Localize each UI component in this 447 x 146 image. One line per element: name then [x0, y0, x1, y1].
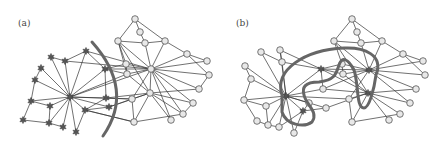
edge	[403, 54, 425, 75]
circle-node	[196, 86, 203, 93]
star-node	[32, 76, 38, 83]
circle-node	[168, 117, 175, 124]
edge	[105, 69, 106, 98]
edge	[41, 68, 70, 97]
circle-node	[190, 100, 197, 107]
edge	[85, 110, 134, 122]
edge	[382, 41, 403, 54]
edge	[23, 120, 49, 123]
circle-node	[148, 66, 155, 73]
circle-node	[346, 96, 353, 103]
circle-node	[413, 86, 420, 93]
circle-node	[137, 29, 144, 36]
circle-node	[349, 16, 356, 23]
network-diagram-b: (b)	[224, 0, 447, 146]
circle-node	[279, 59, 286, 66]
circle-node	[254, 118, 261, 125]
circle-node	[142, 40, 149, 47]
edge	[361, 43, 369, 70]
edge	[85, 107, 109, 110]
circle-node	[277, 47, 284, 54]
panel-label: (b)	[236, 18, 249, 28]
circle-node	[386, 117, 393, 124]
edge	[35, 80, 70, 97]
edge	[126, 64, 151, 69]
edge	[106, 98, 132, 99]
circle-node	[241, 97, 248, 104]
edge	[70, 97, 76, 132]
circle-node	[397, 111, 404, 118]
circle-node	[354, 29, 361, 36]
circle-node	[263, 103, 270, 110]
star-node	[47, 102, 53, 109]
edge	[368, 89, 416, 93]
edge	[31, 80, 35, 101]
panel-b: (b)	[224, 0, 447, 146]
edge	[70, 69, 105, 97]
edge	[31, 97, 70, 101]
edge	[150, 93, 183, 114]
circle-node	[115, 38, 122, 45]
circle-node	[180, 111, 187, 118]
star-node	[48, 53, 54, 60]
edge	[118, 41, 145, 43]
star-node	[73, 128, 79, 135]
circle-node	[276, 124, 283, 131]
circle-node	[204, 58, 211, 65]
edge	[76, 110, 85, 132]
edge	[118, 41, 150, 93]
circle-node	[206, 72, 213, 79]
circle-node	[331, 38, 338, 45]
edge	[334, 19, 352, 41]
circle-node	[131, 119, 138, 126]
circle-node	[147, 90, 154, 97]
circle-node	[320, 86, 327, 93]
edge	[70, 74, 127, 97]
circle-node	[184, 51, 191, 58]
panel-a: (a)	[0, 0, 224, 146]
edge	[70, 51, 86, 97]
circle-node	[123, 61, 130, 68]
edge	[31, 101, 50, 106]
circle-node	[265, 122, 272, 129]
edge	[352, 114, 400, 122]
circle-node	[258, 49, 265, 56]
circle-node	[340, 71, 347, 78]
circle-node	[124, 71, 131, 78]
edge	[165, 41, 187, 54]
edge	[151, 69, 209, 75]
edge	[321, 69, 369, 70]
network-diagram-a: (a)	[0, 0, 224, 146]
circle-node	[162, 38, 169, 45]
panel-label: (a)	[18, 18, 30, 28]
edge	[151, 41, 165, 69]
circle-node	[323, 105, 330, 112]
circle-node	[129, 96, 136, 103]
circle-node	[242, 63, 249, 70]
circle-node	[420, 58, 427, 65]
circle-node	[349, 119, 356, 126]
edge	[150, 89, 199, 93]
edge	[334, 41, 361, 43]
edge	[127, 74, 150, 93]
circle-node	[407, 100, 414, 107]
circle-node	[379, 38, 386, 45]
edge	[118, 19, 135, 41]
circle-node	[422, 72, 429, 79]
circle-node	[400, 51, 407, 58]
circle-node	[291, 130, 298, 137]
circle-node	[358, 40, 365, 47]
cut-line	[92, 42, 117, 136]
circle-node	[248, 76, 255, 83]
edge	[134, 114, 183, 122]
circle-node	[132, 16, 139, 23]
edge	[187, 54, 209, 75]
edge	[23, 101, 31, 120]
star-node	[60, 123, 66, 130]
